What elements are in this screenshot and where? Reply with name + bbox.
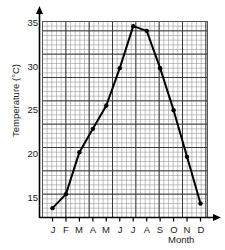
chart-canvas: [0, 0, 225, 250]
data-point-february: [64, 192, 68, 196]
data-point-october: [171, 108, 175, 112]
data-point-june: [118, 66, 122, 70]
data-point-january: [50, 206, 54, 210]
data-point-may: [104, 103, 108, 107]
data-point-april: [91, 127, 95, 131]
data-point-november: [185, 155, 189, 159]
y-axis-arrow-icon: [36, 6, 43, 14]
data-point-july: [131, 24, 135, 28]
data-point-march: [77, 150, 81, 154]
data-point-september: [158, 66, 162, 70]
data-point-december: [198, 201, 202, 205]
data-point-august: [144, 29, 148, 33]
temperature-line-chart: Temperature (°C) Month 35 30 25 20 15 J …: [0, 0, 225, 250]
x-axis-arrow-icon: [213, 214, 221, 221]
